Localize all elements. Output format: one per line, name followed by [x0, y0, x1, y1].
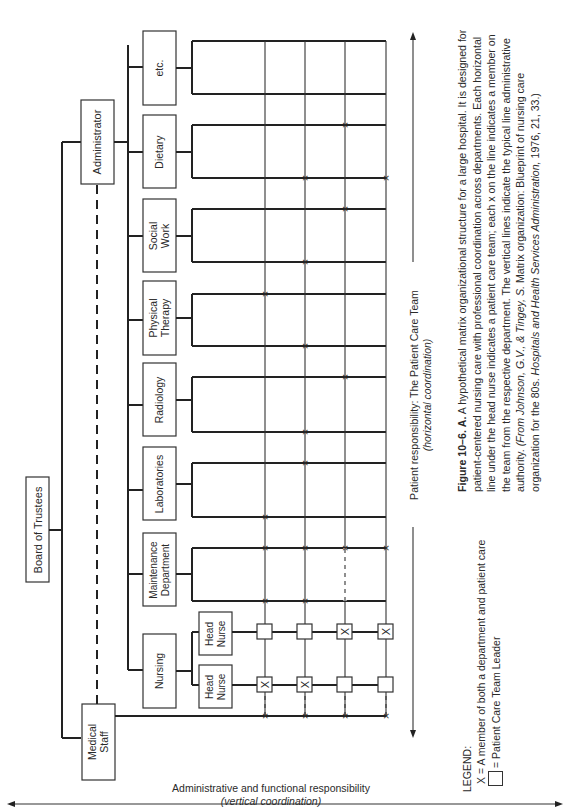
svg-text:X: X: [339, 627, 351, 635]
svg-text:Dietary: Dietary: [153, 135, 165, 169]
svg-text:Nurse: Nurse: [216, 673, 227, 700]
svg-text:×: ×: [299, 460, 311, 466]
svg-text:×: ×: [299, 259, 311, 265]
vertical-axis-label: Administrative and functional responsibi…: [136, 782, 406, 808]
head-nurse-2: Head Nurse: [192, 612, 232, 655]
department-nursing: Nursing: [128, 634, 176, 708]
department-laboratories: Laboratories: [128, 447, 176, 520]
svg-text:×: ×: [299, 429, 311, 435]
svg-text:X: X: [259, 680, 271, 688]
horizontal-axis: Patient responsibility: The Patient Care…: [405, 32, 435, 738]
legend: LEGEND: X = A member of both a departmen…: [460, 540, 503, 792]
figure-caption: Figure 10–6. A. A hypothetical matrix or…: [455, 22, 542, 492]
svg-text:×: ×: [380, 713, 392, 719]
svg-text:×: ×: [299, 545, 311, 551]
department-physical-therapy: Physical Therapy: [128, 281, 176, 355]
svg-text:×: ×: [339, 122, 351, 128]
board-of-trustees-box: Board of Trustees: [26, 477, 49, 582]
legend-x: X = A member of both a department and pa…: [474, 540, 488, 792]
patient-care-team-rows: [265, 41, 386, 716]
svg-text:×: ×: [259, 514, 271, 520]
department-etc: etc.: [128, 31, 176, 105]
svg-text:Department: Department: [160, 544, 171, 596]
svg-text:×: ×: [259, 713, 271, 719]
svg-text:×: ×: [380, 545, 392, 551]
svg-text:Medical: Medical: [86, 724, 98, 760]
department-social-work: Social Work: [128, 199, 176, 272]
svg-text:Radiology: Radiology: [153, 376, 165, 423]
legend-square: = Patient Care Team Leader: [488, 540, 503, 792]
svg-text:×: ×: [259, 291, 271, 297]
svg-text:Physical: Physical: [147, 298, 159, 337]
svg-text:(horizontal coordination): (horizontal coordination): [421, 339, 433, 452]
svg-text:Patient responsibility: The Pa: Patient responsibility: The Patient Care…: [408, 290, 420, 500]
svg-text:Staff: Staff: [98, 731, 110, 752]
svg-text:Head: Head: [204, 622, 215, 646]
rotated-figure: Board of Trustees Administrator Medical …: [0, 0, 572, 810]
team-leader-square-icon: [488, 771, 503, 786]
svg-text:×: ×: [299, 343, 311, 349]
svg-text:X: X: [299, 680, 311, 688]
svg-text:Administrator: Administrator: [91, 109, 103, 174]
medical-staff-box: Medical Staff: [82, 704, 115, 780]
svg-text:Laboratories: Laboratories: [153, 455, 165, 513]
svg-text:etc.: etc.: [153, 60, 165, 77]
administrator-box: Administrator: [81, 100, 114, 184]
svg-text:×: ×: [259, 545, 271, 551]
svg-text:Nurse: Nurse: [216, 620, 227, 647]
svg-text:Maintenance: Maintenance: [148, 541, 159, 599]
svg-text:Work: Work: [159, 223, 171, 248]
svg-text:×: ×: [339, 206, 351, 212]
legend-title: LEGEND:: [460, 540, 474, 792]
svg-text:×: ×: [380, 175, 392, 181]
svg-text:×: ×: [339, 545, 351, 551]
head-nurse-1: Head Nurse: [192, 665, 232, 708]
svg-text:×: ×: [299, 713, 311, 719]
svg-text:×: ×: [339, 374, 351, 380]
svg-text:×: ×: [299, 598, 311, 604]
svg-text:Therapy: Therapy: [159, 298, 171, 337]
svg-text:×: ×: [299, 175, 311, 181]
department-dietary: Dietary: [128, 115, 176, 188]
svg-text:Head: Head: [204, 675, 215, 699]
svg-text:X: X: [380, 627, 392, 635]
department-radiology: Radiology: [128, 363, 176, 436]
svg-text:Nursing: Nursing: [153, 653, 165, 689]
svg-text:Board of Trustees: Board of Trustees: [32, 486, 44, 573]
team-leader-squares: X X X X: [257, 624, 393, 692]
svg-text:×: ×: [339, 713, 351, 719]
svg-text:Social: Social: [147, 222, 159, 251]
member-x-marks: ×××× ×× ×××× × × × × × × × × ×× ×: [259, 122, 392, 719]
department-maintenance: Maintenance Department: [128, 533, 176, 606]
svg-text:×: ×: [259, 598, 271, 604]
